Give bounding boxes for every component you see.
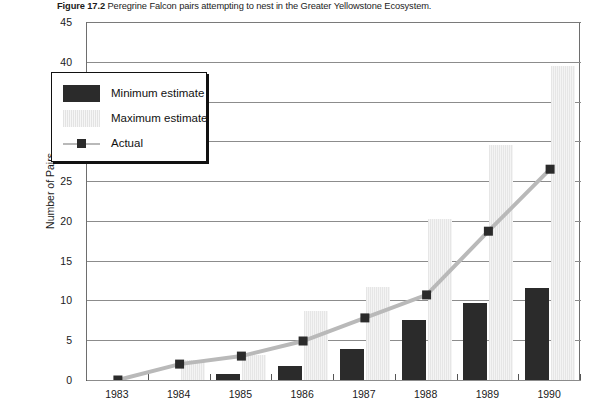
- actual-marker-1985: [237, 352, 246, 361]
- legend-square-marker-icon: [77, 139, 86, 148]
- actual-marker-1989: [484, 227, 493, 236]
- legend-item-max: Maximum estimate: [52, 106, 208, 130]
- actual-marker-1986: [299, 337, 308, 346]
- actual-line: [118, 169, 550, 380]
- x-tick-label-1987: 1987: [334, 388, 394, 400]
- x-tick-label-1990: 1990: [519, 388, 579, 400]
- legend-label-max: Maximum estimate: [111, 112, 208, 124]
- line-marker-swatch: [63, 135, 100, 152]
- legend-item-actual: Actual: [52, 131, 208, 155]
- x-tick-label-1989: 1989: [457, 388, 517, 400]
- light-bar-swatch: [63, 110, 100, 127]
- gridline-0: [87, 380, 581, 381]
- actual-marker-1984: [175, 360, 184, 369]
- actual-marker-1983: [113, 376, 122, 381]
- dark-bar-swatch: [63, 85, 100, 102]
- legend-label-actual: Actual: [111, 137, 143, 149]
- actual-marker-1987: [360, 313, 369, 322]
- actual-marker-1990: [546, 165, 555, 174]
- x-tick-label-1983: 1983: [87, 388, 147, 400]
- x-tick-label-1984: 1984: [149, 388, 209, 400]
- x-tick-label-1985: 1985: [210, 388, 270, 400]
- legend-label-min: Minimum estimate: [111, 87, 204, 99]
- x-tick-label-1988: 1988: [396, 388, 456, 400]
- falcon-nesting-chart: Number of Pairs 051015202530354045 19831…: [0, 0, 596, 410]
- actual-marker-1988: [422, 290, 431, 299]
- x-tick-label-1986: 1986: [272, 388, 332, 400]
- chart-legend: Minimum estimateMaximum estimateActual: [51, 72, 207, 162]
- legend-item-min: Minimum estimate: [52, 81, 208, 105]
